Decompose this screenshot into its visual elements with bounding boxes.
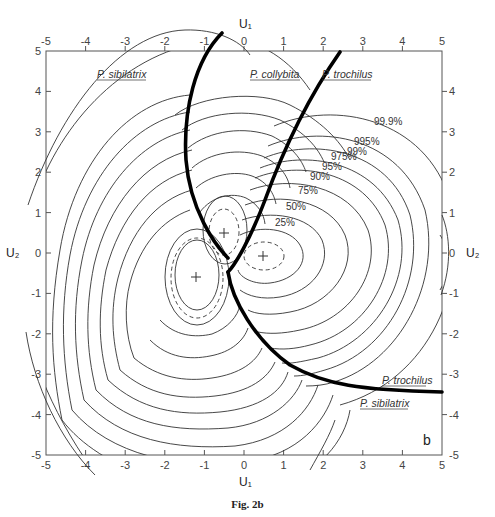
label-sibilatrix-top: P. sibilatrix — [97, 68, 147, 80]
sibilatrix-25pct-contour — [175, 240, 219, 310]
svg-text:0: 0 — [241, 459, 247, 471]
y-axis-title-left: U₂ — [6, 246, 20, 260]
tick-marks — [46, 46, 447, 455]
top-tick-labels: -5 -4 -3 -2 -1 0 1 2 3 4 5 — [41, 35, 445, 47]
figure-caption: Fig. 2b — [0, 498, 495, 510]
svg-text:-2: -2 — [449, 328, 459, 340]
svg-text:5: 5 — [35, 45, 41, 57]
svg-text:90%: 90% — [310, 171, 330, 182]
sibilatrix-dashed-contour — [171, 238, 223, 318]
decision-boundaries — [186, 33, 442, 392]
svg-text:-5: -5 — [449, 449, 459, 461]
svg-text:2: 2 — [449, 166, 455, 178]
right-tick-labels: 4 3 2 1 0 -1 -2 -3 -4 -5 — [449, 85, 459, 461]
svg-text:-2: -2 — [31, 328, 41, 340]
svg-text:-3: -3 — [120, 459, 130, 471]
label-trochilus-bottom: P. trochilus — [382, 374, 433, 386]
svg-text:0: 0 — [35, 247, 41, 259]
svg-text:-4: -4 — [81, 35, 91, 47]
svg-text:-1: -1 — [31, 287, 41, 299]
svg-text:1: 1 — [281, 459, 287, 471]
bottom-tick-labels: -5 -4 -3 -2 -1 0 1 2 3 4 5 — [41, 459, 445, 471]
svg-text:3: 3 — [360, 459, 366, 471]
svg-text:1: 1 — [35, 207, 41, 219]
label-sibilatrix-bottom: P. sibilatrix — [360, 397, 410, 409]
outer-contour-top — [28, 30, 250, 205]
label-trochilus-top: P. trochilus — [322, 68, 373, 80]
svg-text:4: 4 — [399, 35, 405, 47]
x-axis-title-top: U₁ — [239, 17, 252, 31]
svg-text:-4: -4 — [449, 409, 459, 421]
svg-text:99.9%: 99.9% — [374, 116, 402, 127]
contour-figure: -5 -4 -3 -2 -1 0 1 2 3 4 5 -5 -4 -3 -2 -… — [0, 0, 495, 517]
svg-text:-2: -2 — [160, 459, 170, 471]
svg-text:-4: -4 — [31, 409, 41, 421]
svg-text:2: 2 — [320, 35, 326, 47]
svg-text:-1: -1 — [200, 35, 210, 47]
svg-text:1: 1 — [281, 35, 287, 47]
svg-text:3: 3 — [35, 126, 41, 138]
svg-text:-1: -1 — [449, 287, 459, 299]
svg-text:4: 4 — [35, 85, 41, 97]
svg-text:-1: -1 — [200, 459, 210, 471]
left-tick-labels: 5 4 3 2 1 0 -1 -2 -3 -4 -5 — [31, 45, 41, 461]
svg-text:-3: -3 — [120, 35, 130, 47]
y-axis-title-right: U₂ — [466, 246, 480, 260]
panel-letter: b — [423, 432, 431, 448]
x-axis-title-bottom: U₁ — [239, 475, 252, 489]
svg-text:4: 4 — [399, 459, 405, 471]
label-collybita-top: P. collybita — [250, 68, 300, 80]
outer-right-arc — [440, 235, 448, 290]
svg-text:-2: -2 — [160, 35, 170, 47]
svg-text:1: 1 — [449, 207, 455, 219]
svg-text:3: 3 — [360, 35, 366, 47]
svg-text:-5: -5 — [31, 449, 41, 461]
svg-text:5: 5 — [439, 35, 445, 47]
svg-text:50%: 50% — [286, 201, 306, 212]
svg-text:5: 5 — [439, 459, 445, 471]
svg-text:2: 2 — [320, 459, 326, 471]
svg-text:3: 3 — [449, 126, 455, 138]
svg-text:25%: 25% — [275, 217, 295, 228]
svg-text:-5: -5 — [41, 459, 51, 471]
svg-text:0: 0 — [241, 35, 247, 47]
svg-text:75%: 75% — [298, 185, 318, 196]
svg-text:4: 4 — [449, 85, 455, 97]
svg-text:0: 0 — [449, 247, 455, 259]
svg-text:-5: -5 — [41, 35, 51, 47]
svg-text:-3: -3 — [449, 368, 459, 380]
